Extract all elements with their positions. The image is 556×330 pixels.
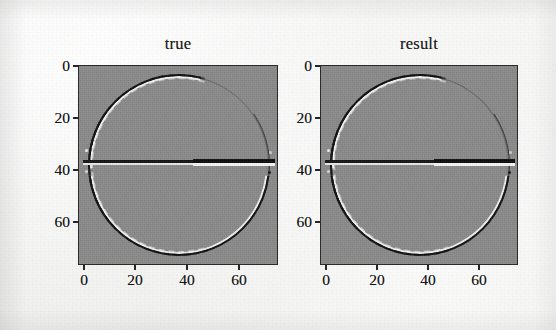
ytick-label-20-result: 20	[266, 109, 312, 127]
xtick-40-true	[186, 265, 188, 270]
ytick-label-60-true: 60	[24, 213, 70, 231]
xtick-20-true	[134, 265, 136, 270]
panel-title-true: true	[78, 34, 278, 54]
ytick-label-0-true: 0	[24, 57, 70, 75]
xtick-60-true	[238, 265, 240, 270]
xtick-0-true	[83, 265, 85, 270]
figure-root: true 0 20 40 60	[0, 0, 556, 330]
ytick-label-60-result: 60	[266, 213, 312, 231]
xtick-label-40-result: 40	[420, 271, 436, 289]
xtick-label-20-result: 20	[369, 271, 385, 289]
image-axes-true	[78, 65, 278, 265]
image-axes-result	[320, 65, 518, 265]
xtick-label-60-true: 60	[231, 271, 247, 289]
xtick-label-60-result: 60	[471, 271, 487, 289]
xtick-0-result	[325, 265, 327, 270]
xtick-60-result	[478, 265, 480, 270]
xtick-40-result	[427, 265, 429, 270]
panel-title-result: result	[320, 34, 518, 54]
ytick-label-20-true: 20	[24, 109, 70, 127]
ytick-label-40-result: 40	[266, 161, 312, 179]
ytick-label-40-true: 40	[24, 161, 70, 179]
raster-image-true	[79, 66, 277, 264]
xtick-label-40-true: 40	[179, 271, 195, 289]
ytick-label-0-result: 0	[266, 57, 312, 75]
xtick-label-0-true: 0	[80, 271, 88, 289]
xtick-label-0-result: 0	[322, 271, 330, 289]
raster-image-result	[321, 66, 517, 264]
xtick-label-20-true: 20	[127, 271, 143, 289]
xtick-20-result	[376, 265, 378, 270]
